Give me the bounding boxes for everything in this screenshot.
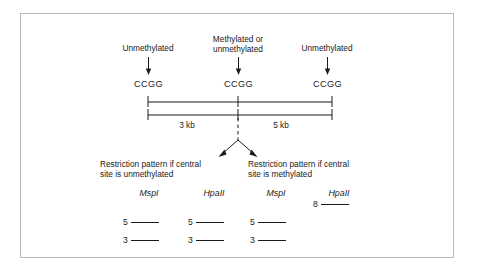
branch-fork (205, 118, 271, 160)
lane-header-meth-mspi: MspI (253, 188, 299, 198)
lane-header-unmeth-mspi: MspI (126, 188, 172, 198)
band-size-label: 5 (123, 218, 128, 227)
site-label-center: Methylated or unmethylated (198, 35, 278, 54)
arrow-to-site-center (234, 57, 243, 75)
band-line (321, 204, 349, 205)
enzyme-numeral: I (283, 188, 285, 198)
band-size-label: 3 (123, 236, 128, 245)
ccgg-site-left: CCGG (123, 79, 174, 89)
band-unmeth-hpaii-3: 3 (188, 236, 224, 245)
band-size-label: 5 (250, 218, 255, 227)
band-meth-hpaii-8: 8 (313, 200, 349, 209)
band-line (131, 240, 159, 241)
band-meth-mspi-3: 3 (250, 236, 286, 245)
figure-canvas: Unmethylated Methylated or unmethylated … (0, 0, 477, 275)
panel-caption-methylated: Restriction pattern if central site is m… (248, 160, 380, 179)
enzyme-name-italic: Hpa (328, 188, 344, 198)
lane-header-unmeth-hpaii: HpaII (191, 188, 237, 198)
arrow-to-site-left (144, 57, 153, 75)
panel-caption-unmethylated: Restriction pattern if central site is u… (100, 160, 232, 179)
enzyme-name-italic: Hpa (203, 188, 219, 198)
band-line (258, 222, 286, 223)
ccgg-site-center: CCGG (213, 79, 264, 89)
band-size-label: 8 (313, 200, 318, 209)
band-line (131, 222, 159, 223)
band-unmeth-mspi-5: 5 (123, 218, 159, 227)
enzyme-name-italic: Msp (266, 188, 283, 198)
enzyme-name-italic: Msp (139, 188, 156, 198)
distance-label-3kb: 3 kb (167, 121, 207, 131)
enzyme-numeral: I (156, 188, 158, 198)
ccgg-site-right: CCGG (302, 79, 353, 89)
site-label-left: Unmethylated (108, 44, 188, 54)
band-line (258, 240, 286, 241)
arrow-to-site-right (323, 57, 332, 75)
enzyme-numeral: II (345, 188, 350, 198)
band-size-label: 3 (188, 236, 193, 245)
band-unmeth-hpaii-5: 5 (188, 218, 224, 227)
band-unmeth-mspi-3: 3 (123, 236, 159, 245)
band-meth-mspi-5: 5 (250, 218, 286, 227)
site-label-right: Unmethylated (287, 44, 367, 54)
band-line (196, 240, 224, 241)
lane-header-meth-hpaii: HpaII (316, 188, 362, 198)
band-line (196, 222, 224, 223)
band-size-label: 5 (188, 218, 193, 227)
enzyme-numeral: II (220, 188, 225, 198)
band-size-label: 3 (250, 236, 255, 245)
scale-bar-upper (142, 94, 338, 108)
